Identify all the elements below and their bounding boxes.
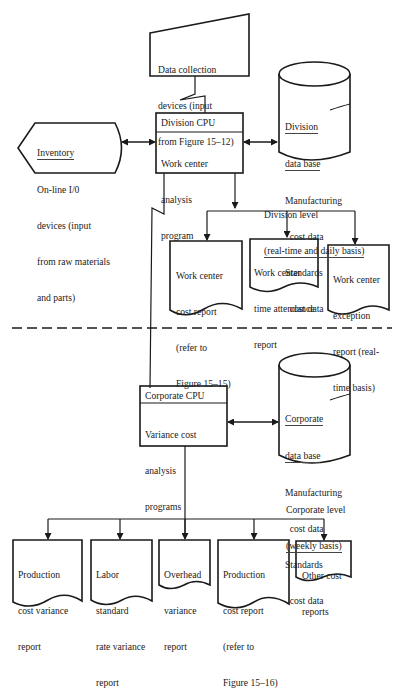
division-cpu-program: Work center analysis program	[161, 134, 208, 254]
corporate-cpu-title: Corporate CPU	[145, 390, 204, 402]
inventory-title: Inventory	[37, 147, 74, 160]
corporate-report-2: Labor standard rate variance report	[96, 545, 145, 693]
corporate-report-3: Overhead variance report	[164, 545, 201, 665]
division-report-2: Work center time attendance report	[254, 243, 314, 363]
inventory-label: Inventory On-line I/0 devices (input fro…	[37, 123, 110, 316]
division-report-1: Work center cost report (refer to Figure…	[176, 246, 231, 402]
corporate-cpu-program: Variance cost analysis programs	[145, 405, 196, 525]
division-report-3: Work center exception report (real- time…	[333, 250, 380, 406]
corporate-report-1: Production cost variance report	[18, 545, 68, 665]
division-cpu-title: Division CPU	[161, 117, 215, 129]
corporate-report-5: Other cost reports	[302, 546, 342, 630]
corporate-report-4: Production cost report (refer to Figure …	[223, 545, 278, 693]
